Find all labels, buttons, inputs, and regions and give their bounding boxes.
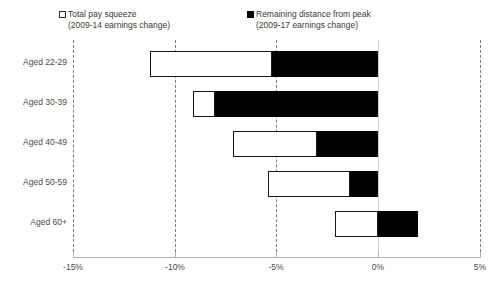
filled-square-marker-icon xyxy=(247,11,254,18)
x-tick-neg5 xyxy=(276,252,277,258)
x-tick-zero xyxy=(378,252,379,258)
y-tick-label-aged-60-plus: Aged 60+ xyxy=(30,217,67,227)
bar-chart: Total pay squeeze (2009-14 earnings chan… xyxy=(0,0,501,288)
bar-row-aged-60-plus xyxy=(335,211,418,237)
x-tick-label-neg5: -5% xyxy=(268,262,283,272)
bar-segment-remaining-distance xyxy=(272,51,378,77)
legend-label-total-pay-squeeze: Total pay squeeze xyxy=(68,9,137,20)
x-tick-label-neg15: -15% xyxy=(63,262,83,272)
open-square-marker-icon xyxy=(59,11,66,18)
x-tick-neg15 xyxy=(73,252,74,258)
legend-entry-remaining-distance: Remaining distance from peak (2009-17 ea… xyxy=(247,9,371,31)
legend-sublabel-remaining-distance: (2009-17 earnings change) xyxy=(247,20,371,31)
y-tick-label-aged-50-59: Aged 50-59 xyxy=(23,177,67,187)
plot-area xyxy=(73,40,480,257)
bar-segment-remaining-distance xyxy=(215,91,378,117)
legend-entry-total-pay-squeeze: Total pay squeeze (2009-14 earnings chan… xyxy=(59,9,170,31)
bar-row-aged-30-39 xyxy=(193,91,378,117)
gridline-pos5 xyxy=(480,40,481,257)
y-tick-label-aged-40-49: Aged 40-49 xyxy=(23,137,67,147)
bar-segment-total-pay-squeeze xyxy=(193,91,215,117)
chart-legend: Total pay squeeze (2009-14 earnings chan… xyxy=(0,0,501,40)
bar-segment-total-pay-squeeze xyxy=(268,171,350,197)
legend-label-remaining-distance: Remaining distance from peak xyxy=(256,9,371,20)
bar-row-aged-22-29 xyxy=(150,51,378,77)
x-tick-label-neg10: -10% xyxy=(165,262,185,272)
bar-segment-total-pay-squeeze xyxy=(335,211,378,237)
x-axis-line xyxy=(73,257,481,258)
bar-segment-total-pay-squeeze xyxy=(233,131,317,157)
y-axis-labels: Aged 22-29 Aged 30-39 Aged 40-49 Aged 50… xyxy=(0,40,67,257)
x-tick-pos5 xyxy=(480,252,481,258)
bar-segment-remaining-distance xyxy=(350,171,378,197)
y-tick-label-aged-22-29: Aged 22-29 xyxy=(23,57,67,67)
legend-sublabel-total-pay-squeeze: (2009-14 earnings change) xyxy=(59,20,170,31)
bar-segment-total-pay-squeeze xyxy=(150,51,272,77)
bar-row-aged-40-49 xyxy=(233,131,378,157)
bar-segment-remaining-distance xyxy=(317,131,378,157)
x-tick-label-pos5: 5% xyxy=(474,262,486,272)
y-tick-label-aged-30-39: Aged 30-39 xyxy=(23,97,67,107)
x-tick-neg10 xyxy=(175,252,176,258)
x-tick-label-zero: 0% xyxy=(372,262,384,272)
bar-segment-remaining-distance xyxy=(378,211,418,237)
gridline-neg15 xyxy=(73,40,74,257)
bar-row-aged-50-59 xyxy=(268,171,378,197)
